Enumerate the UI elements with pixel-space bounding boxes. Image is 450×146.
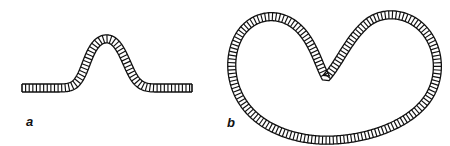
panel-b-filament (228, 11, 442, 144)
panel-label-a: a (26, 115, 33, 128)
ribbon-rung (65, 84, 66, 92)
ribbon-rung (315, 136, 316, 144)
figure-canvas: a b (0, 0, 450, 146)
ribbon-rung (340, 136, 341, 144)
panel-a-filament (22, 35, 192, 92)
filament-diagram-svg (0, 0, 450, 146)
ribbon-rung (319, 136, 320, 144)
panel-a-ribbon-body (22, 39, 192, 88)
ribbon-rung (337, 136, 338, 144)
ribbon-rung (433, 70, 441, 71)
panel-label-b: b (227, 116, 235, 129)
